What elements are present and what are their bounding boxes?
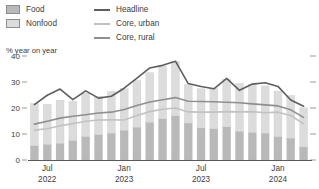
right-axis-tick-mark	[310, 108, 316, 109]
chart-canvas	[28, 56, 310, 160]
bar-segment-nonfood	[43, 104, 51, 144]
bar-segment-food	[236, 131, 244, 160]
x-axis-month: Jul	[192, 163, 210, 174]
bar-segment-nonfood	[210, 89, 218, 129]
x-axis-tick-label: Jul2022	[38, 163, 56, 185]
bar-segment-food	[274, 137, 282, 160]
bar-segment-food	[56, 143, 64, 160]
x-axis-month: Jan	[269, 163, 287, 174]
x-axis-tick-label: Jul2023	[192, 163, 210, 185]
y-axis-tick-mark	[22, 56, 27, 57]
x-axis-year: 2023	[192, 174, 210, 185]
y-axis-tick-mark	[22, 82, 27, 83]
legend-column-lines: Headline Core, urban Core, rural	[94, 3, 159, 45]
bar-series-group	[30, 61, 307, 160]
right-axis-tick-mark	[310, 56, 316, 57]
bar-segment-nonfood	[56, 100, 64, 143]
inflation-chart-figure: Food Nonfood Headline Core, urban Core, …	[0, 0, 319, 189]
right-axis-tick-mark	[310, 134, 316, 135]
bar-segment-food	[261, 133, 269, 160]
bar-segment-food	[69, 141, 77, 161]
chart-svg	[28, 56, 310, 160]
legend-label-core-rural: Core, rural	[116, 33, 155, 42]
right-axis-tick-mark	[310, 82, 316, 83]
legend-label-food: Food	[26, 5, 45, 14]
bar-segment-food	[43, 144, 51, 160]
x-axis-tick-label: Jan2024	[269, 163, 287, 185]
bar-segment-nonfood	[95, 96, 103, 134]
x-axis-year: 2024	[269, 174, 287, 185]
legend-line-core-urban-icon	[94, 23, 110, 25]
y-axis-tick-label: 10	[11, 130, 20, 139]
x-axis-line	[28, 160, 312, 161]
bar-segment-food	[287, 138, 295, 160]
plot-area: 010203040 Jul2022Jan2023Jul2023Jan2024	[0, 56, 319, 189]
x-axis-month: Jan	[115, 163, 133, 174]
bar-segment-food	[95, 135, 103, 160]
legend-item-core-rural: Core, rural	[94, 31, 159, 44]
bar-segment-food	[30, 146, 38, 160]
legend-swatch-food-icon	[6, 5, 20, 14]
bar-segment-nonfood	[197, 89, 205, 128]
bar-segment-food	[197, 128, 205, 160]
bar-segment-food	[120, 130, 128, 160]
legend-item-food: Food	[6, 3, 57, 16]
y-axis-tick-label: 30	[11, 78, 20, 87]
legend-item-nonfood: Nonfood	[6, 17, 57, 30]
legend-swatch-nonfood-icon	[6, 19, 20, 28]
bar-segment-food	[300, 147, 308, 160]
bar-segment-food	[133, 127, 141, 160]
bar-segment-nonfood	[69, 101, 77, 140]
x-axis-year: 2023	[115, 174, 133, 185]
bar-segment-food	[159, 119, 167, 160]
legend-item-core-urban: Core, urban	[94, 17, 159, 30]
bar-segment-nonfood	[248, 85, 256, 133]
bar-segment-nonfood	[274, 91, 282, 137]
x-axis-year: 2022	[38, 174, 56, 185]
bar-segment-food	[146, 122, 154, 160]
y-axis-tick-mark	[22, 108, 27, 109]
y-axis-tick-label: 20	[11, 104, 20, 113]
bar-segment-nonfood	[184, 85, 192, 123]
bar-segment-nonfood	[300, 108, 308, 147]
y-axis-tick-mark	[22, 134, 27, 135]
bar-segment-nonfood	[261, 86, 269, 133]
y-axis-labels: 010203040	[0, 56, 28, 160]
bar-segment-nonfood	[159, 66, 167, 119]
legend-line-core-rural-icon	[94, 37, 110, 39]
bar-segment-food	[248, 132, 256, 160]
bar-segment-food	[223, 127, 231, 160]
chart-legend: Food Nonfood Headline Core, urban Core, …	[6, 3, 306, 45]
legend-label-core-urban: Core, urban	[116, 19, 159, 28]
y-axis-tick-label: 40	[11, 52, 20, 61]
bar-segment-food	[82, 137, 90, 160]
legend-label-headline: Headline	[116, 5, 148, 14]
x-axis-tick-label: Jan2023	[115, 163, 133, 185]
y-axis-tick-mark	[22, 160, 27, 161]
bar-segment-food	[210, 129, 218, 160]
bar-segment-food	[107, 133, 115, 160]
x-axis-month: Jul	[38, 163, 56, 174]
legend-item-headline: Headline	[94, 3, 159, 16]
legend-column-swatches: Food Nonfood	[6, 3, 57, 31]
bar-segment-food	[184, 123, 192, 160]
bar-segment-food	[171, 116, 179, 160]
x-axis-labels: Jul2022Jan2023Jul2023Jan2024	[0, 163, 319, 189]
legend-label-nonfood: Nonfood	[26, 19, 57, 28]
legend-line-headline-icon	[94, 9, 110, 11]
bar-segment-nonfood	[146, 73, 154, 123]
